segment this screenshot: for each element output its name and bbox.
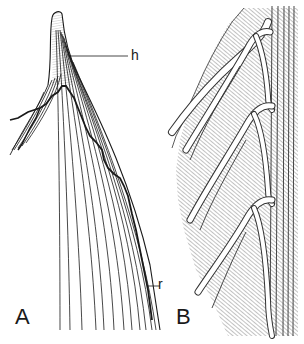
line-drawing [0, 0, 304, 344]
panel-b-drawing [172, 6, 298, 336]
callout-r-label: r [158, 276, 163, 292]
panel-a-label: A [15, 304, 30, 330]
callout-h-label: h [131, 47, 139, 63]
panel-b-label: B [176, 304, 191, 330]
scientific-figure: h r A B [0, 0, 304, 344]
